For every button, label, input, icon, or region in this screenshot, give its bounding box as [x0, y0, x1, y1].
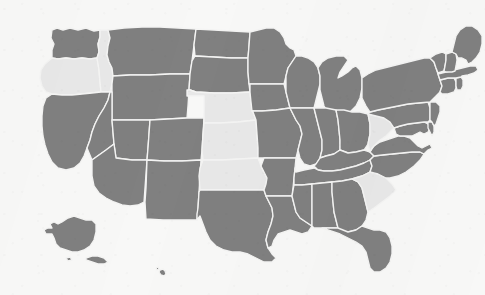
state-OK[interactable]: Oklahoma: [199, 158, 267, 190]
state-MI[interactable]: Michigan: [318, 56, 362, 116]
state-OH[interactable]: Ohio: [336, 110, 370, 153]
state-HI[interactable]: Hawaii: [156, 267, 166, 276]
state-NM[interactable]: New Mexico: [145, 160, 201, 220]
state-OR[interactable]: Oregon: [40, 58, 101, 95]
state-FL[interactable]: Florida: [322, 226, 392, 272]
state-UT[interactable]: Utah: [112, 120, 150, 160]
state-SD[interactable]: South Dakota: [189, 56, 250, 93]
us-map-svg: Washington Oregon Idaho Montana Wyoming …: [0, 0, 485, 295]
state-AR[interactable]: Arkansas: [261, 158, 296, 196]
state-CT[interactable]: Connecticut: [440, 78, 456, 94]
state-IA[interactable]: Iowa: [250, 84, 290, 111]
state-WY[interactable]: Wyoming: [112, 74, 190, 120]
state-KS[interactable]: Kansas: [202, 120, 258, 160]
us-choropleth-map: Washington Oregon Idaho Montana Wyoming …: [0, 0, 485, 295]
state-NH[interactable]: New Hampshire: [444, 52, 457, 72]
state-NJ[interactable]: New Jersey: [430, 102, 440, 126]
state-MT[interactable]: Montana: [107, 27, 196, 76]
state-CO[interactable]: Colorado: [147, 118, 204, 161]
state-TX[interactable]: Texas: [197, 190, 276, 262]
state-AK[interactable]: Alaska: [44, 216, 108, 264]
state-WI[interactable]: Wisconsin: [286, 56, 320, 108]
state-WA[interactable]: Washington: [51, 28, 100, 59]
state-RI[interactable]: Rhode Island: [456, 77, 463, 90]
state-ND[interactable]: North Dakota: [194, 29, 250, 58]
